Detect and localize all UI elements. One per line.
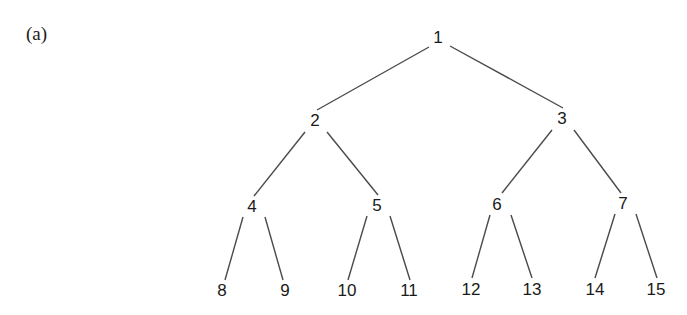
node-9: 9 — [280, 281, 289, 300]
edge-6-12 — [472, 215, 490, 278]
tree-edges — [225, 46, 657, 280]
edge-2-5 — [327, 132, 378, 195]
node-5: 5 — [372, 196, 381, 215]
node-1: 1 — [433, 28, 442, 47]
edge-6-13 — [511, 215, 532, 278]
node-8: 8 — [217, 281, 226, 300]
node-14: 14 — [586, 280, 605, 299]
edge-4-8 — [225, 217, 243, 280]
node-13: 13 — [523, 280, 542, 299]
node-7: 7 — [618, 194, 627, 213]
edge-7-14 — [595, 214, 615, 278]
edge-3-7 — [574, 130, 621, 193]
node-2: 2 — [310, 111, 319, 130]
node-3: 3 — [557, 109, 566, 128]
edge-2-4 — [254, 132, 305, 196]
edge-1-3 — [450, 46, 563, 108]
edge-5-10 — [348, 216, 367, 280]
node-6: 6 — [492, 195, 501, 214]
edge-7-15 — [636, 214, 657, 278]
edge-1-2 — [317, 47, 429, 110]
edge-3-6 — [502, 130, 552, 193]
node-15: 15 — [647, 280, 666, 299]
edge-5-11 — [390, 216, 410, 280]
node-4: 4 — [247, 197, 256, 216]
node-11: 11 — [400, 281, 418, 300]
node-10: 10 — [338, 281, 357, 300]
edge-4-9 — [265, 217, 283, 280]
node-12: 12 — [462, 280, 481, 299]
binary-tree-diagram: 1 2 3 4 5 6 7 8 9 10 11 12 13 14 15 — [0, 0, 687, 315]
